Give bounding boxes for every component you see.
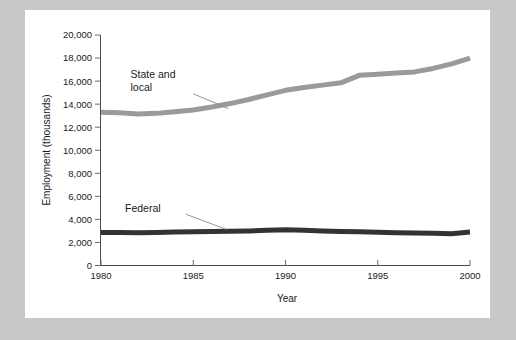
y-axis-tick-label: 12,000 <box>63 122 92 133</box>
annotation-leader-federal <box>186 214 227 229</box>
y-axis-tick-label: 14,000 <box>63 99 92 110</box>
y-axis-tick-label: 20,000 <box>63 29 92 40</box>
annotation-label-federal: Federal <box>125 202 161 214</box>
x-axis-tick-marks <box>101 260 470 266</box>
x-axis-title: Year <box>277 293 298 304</box>
series-line-state-and-local <box>101 58 470 114</box>
x-axis-tick-label: 1980 <box>90 270 111 281</box>
series-line-federal <box>101 230 470 234</box>
x-axis-tick-labels: 19801985199019952000 <box>90 270 480 281</box>
y-axis-tick-label: 2,000 <box>68 237 92 248</box>
annotation-label-state-local: local <box>131 81 153 93</box>
y-axis-tick-label: 4,000 <box>68 214 92 225</box>
x-axis-tick-label: 2000 <box>459 270 480 281</box>
y-axis-tick-label: 10,000 <box>63 145 92 156</box>
y-axis-tick-label: 18,000 <box>63 52 92 63</box>
y-axis-tick-label: 6,000 <box>68 191 92 202</box>
x-axis-tick-label: 1985 <box>183 270 204 281</box>
x-axis-group: 19801985199019952000 Year <box>90 260 480 304</box>
x-axis-tick-label: 1995 <box>367 270 388 281</box>
y-axis-tick-labels: 02,0004,0006,0008,00010,00012,00014,0001… <box>63 29 92 271</box>
y-axis-tick-label: 16,000 <box>63 76 92 87</box>
figure-root: 02,0004,0006,0008,00010,00012,00014,0001… <box>0 0 516 340</box>
employment-line-chart: 02,0004,0006,0008,00010,00012,00014,0001… <box>0 0 516 340</box>
x-axis-tick-label: 1990 <box>275 270 296 281</box>
annotation-label-state-local: State and <box>131 68 176 80</box>
y-axis-title: Employment (thousands) <box>41 94 52 205</box>
series-annotations-group: State andlocalFederal <box>125 68 228 230</box>
y-axis-group: 02,0004,0006,0008,00010,00012,00014,0001… <box>41 29 101 271</box>
y-axis-tick-label: 8,000 <box>68 168 92 179</box>
y-axis-tick-marks <box>95 35 101 266</box>
